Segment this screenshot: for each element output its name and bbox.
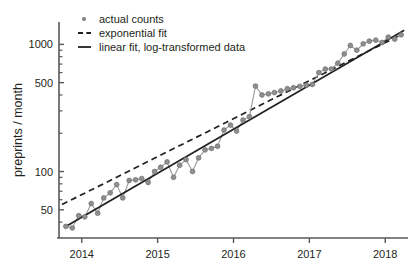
y-tick-label: 1000 xyxy=(29,38,53,50)
legend-label-exponential-fit: exponential fit xyxy=(99,27,167,39)
x-tick-label: 2018 xyxy=(373,248,397,260)
y-axis-title: preprints / month xyxy=(11,83,25,177)
actual-counts-line xyxy=(66,35,401,228)
y-tick-label: 500 xyxy=(35,77,53,89)
x-tick-label: 2016 xyxy=(221,248,245,260)
chart-legend: actual counts exponential fit linear fit… xyxy=(78,13,246,53)
data-series xyxy=(62,30,404,230)
legend-label-actual-counts: actual counts xyxy=(99,13,164,25)
x-tick-label: 2017 xyxy=(297,248,321,260)
exponential-fit-line xyxy=(62,34,402,204)
legend-marker-actual-counts xyxy=(82,17,86,21)
y-tick-label: 50 xyxy=(41,204,53,216)
x-tick-label: 2015 xyxy=(145,248,169,260)
linear-fit-line xyxy=(66,30,404,226)
actual-counts-markers xyxy=(63,32,403,230)
axes xyxy=(57,22,408,243)
x-tick-label: 2014 xyxy=(70,248,94,260)
preprints-growth-chart: 10005001005020142015201620172018 preprin… xyxy=(0,0,414,269)
legend-label-linear-fit: linear fit, log-transformed data xyxy=(99,41,246,53)
chart-figure: 10005001005020142015201620172018 preprin… xyxy=(0,0,414,269)
y-tick-label: 100 xyxy=(35,166,53,178)
